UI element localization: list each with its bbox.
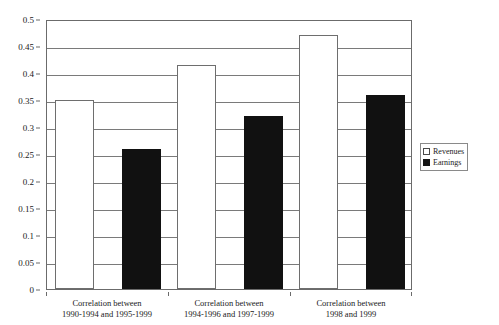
x-axis: Correlation between1990-1994 and 1995-19… (46, 292, 412, 325)
x-axis-tick-mark (411, 292, 412, 296)
y-axis-tick-label: 0.35 (18, 97, 34, 106)
y-axis-tick-label: 0.2 (23, 178, 34, 187)
chart-legend: RevenuesEarnings (420, 143, 468, 171)
earnings-swatch-icon (423, 159, 430, 166)
legend-item-label: Revenues (433, 147, 464, 156)
legend-item-earnings[interactable]: Earnings (423, 157, 464, 168)
x-axis-category-line2: 1990-1994 and 1995-1999 (46, 309, 168, 320)
bar-earnings-1 (122, 149, 161, 289)
y-axis-tick-mark (36, 236, 40, 237)
y-axis-tick-label: 0.15 (18, 205, 34, 214)
x-axis-category-label: Correlation between1994-1996 and 1997-19… (168, 298, 290, 320)
bar-revenues-1 (55, 100, 94, 289)
y-axis-tick-label: 0.4 (23, 70, 34, 79)
y-axis-tick-mark (36, 101, 40, 102)
legend-item-label: Earnings (433, 158, 461, 167)
x-axis-category-line2: 1998 and 1999 (290, 309, 412, 320)
x-axis-category-line1: Correlation between (46, 298, 168, 309)
bar-revenues-2 (177, 65, 216, 289)
revenues-swatch-icon (423, 148, 430, 155)
y-axis-tick-mark (36, 128, 40, 129)
x-axis-tick-mark (168, 292, 169, 296)
x-axis-category-label: Correlation between1990-1994 and 1995-19… (46, 298, 168, 320)
y-axis-tick-mark (36, 263, 40, 264)
y-axis: 0.50.450.40.350.30.250.20.150.10.050 (0, 20, 40, 290)
y-axis-tick-label: 0 (30, 286, 35, 295)
x-axis-tick-mark (290, 292, 291, 296)
x-axis-category-label: Correlation between1998 and 1999 (290, 298, 412, 320)
bar-chart: 0.50.450.40.350.30.250.20.150.10.050 Cor… (0, 0, 499, 325)
bar-revenues-3 (299, 35, 338, 289)
legend-item-revenues[interactable]: Revenues (423, 146, 464, 157)
y-axis-tick-label: 0.05 (18, 259, 34, 268)
y-axis-tick-mark (36, 155, 40, 156)
y-axis-tick-mark (36, 182, 40, 183)
y-axis-tick-label: 0.45 (18, 43, 34, 52)
y-axis-tick-mark (36, 20, 40, 21)
plot-area (46, 20, 412, 290)
y-axis-tick-mark (36, 74, 40, 75)
y-axis-tick-mark (36, 290, 40, 291)
x-axis-tick-mark (46, 292, 47, 296)
y-axis-tick-label: 0.5 (23, 16, 34, 25)
bar-earnings-2 (244, 116, 283, 289)
y-axis-tick-mark (36, 209, 40, 210)
x-axis-category-line1: Correlation between (290, 298, 412, 309)
y-axis-tick-mark (36, 47, 40, 48)
y-axis-tick-label: 0.25 (18, 151, 34, 160)
bar-earnings-3 (366, 95, 405, 289)
x-axis-category-line2: 1994-1996 and 1997-1999 (168, 309, 290, 320)
bars-layer (47, 21, 411, 289)
y-axis-tick-label: 0.3 (23, 124, 34, 133)
y-axis-tick-label: 0.1 (23, 232, 34, 241)
x-axis-category-line1: Correlation between (168, 298, 290, 309)
